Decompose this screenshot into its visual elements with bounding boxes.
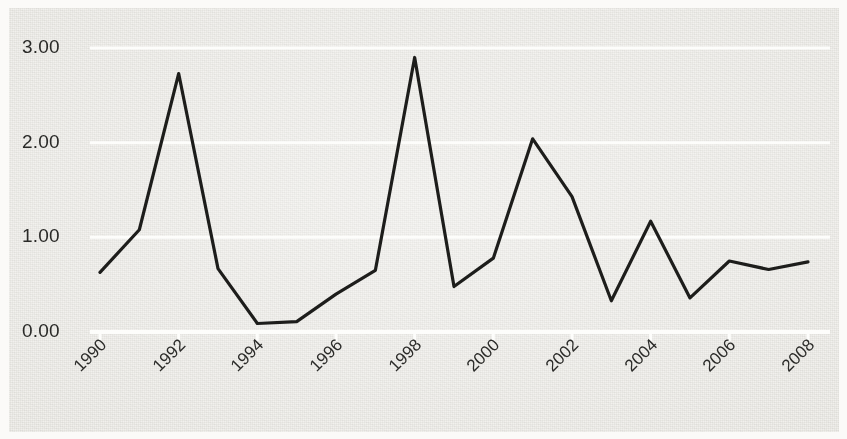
y-tick-label: 0.00 — [22, 320, 60, 342]
data-line — [100, 57, 808, 323]
y-tick-label: 1.00 — [22, 225, 60, 247]
line-chart-plot — [0, 0, 847, 439]
gridlines — [90, 48, 830, 237]
y-tick-label: 3.00 — [22, 36, 60, 58]
chart-figure: 0.001.002.003.00 19901992199419961998200… — [0, 0, 847, 439]
y-tick-label: 2.00 — [22, 131, 60, 153]
data-line-series — [100, 57, 808, 323]
